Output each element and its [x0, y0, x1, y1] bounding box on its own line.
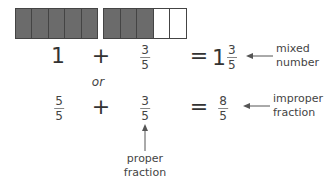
whole-bar — [15, 8, 98, 39]
label-line: fraction — [124, 166, 166, 180]
improper-fraction-label: improper fraction — [273, 92, 323, 120]
fraction-five-fifths: 5 5 — [54, 95, 64, 122]
bar-cell-filled — [82, 9, 97, 38]
mixed-number: 1 3 5 — [212, 44, 237, 71]
label-line: mixed — [276, 42, 319, 56]
bar-cell-filled — [121, 9, 138, 38]
numerator: 8 — [218, 95, 228, 109]
bar-cell-filled — [32, 9, 48, 38]
numerator: 3 — [140, 95, 150, 109]
bar-cell-empty — [170, 9, 186, 38]
plus-sign: + — [92, 96, 110, 118]
whole-number: 1 — [51, 45, 65, 67]
bar-cell-filled — [49, 9, 65, 38]
denominator: 5 — [219, 109, 227, 122]
proper-fraction-label: proper fraction — [124, 152, 166, 180]
denominator: 5 — [141, 58, 149, 71]
bar-cell-filled — [65, 9, 81, 38]
denominator: 5 — [141, 109, 149, 122]
mixed-number-label: mixed number — [276, 42, 319, 70]
equals-sign: = — [190, 45, 208, 67]
numerator: 3 — [140, 44, 150, 58]
bar-cell-filled — [104, 9, 121, 38]
fraction-three-fifths: 3 5 — [140, 95, 150, 122]
label-line: fraction — [273, 106, 323, 120]
mixed-fraction: 3 5 — [227, 44, 237, 71]
denominator: 5 — [228, 58, 236, 71]
numerator: 3 — [227, 44, 237, 58]
fraction-eight-fifths: 8 5 — [218, 95, 228, 122]
or-text: or — [92, 75, 104, 89]
denominator: 5 — [55, 109, 63, 122]
label-line: improper — [273, 92, 323, 106]
bar-cell-empty — [154, 9, 171, 38]
fraction-bar — [103, 8, 187, 39]
bar-cell-filled — [137, 9, 154, 38]
plus-sign: + — [92, 45, 110, 67]
mixed-whole: 1 — [212, 47, 226, 69]
fraction-three-fifths: 3 5 — [140, 44, 150, 71]
arrow-left-icon — [246, 52, 274, 60]
label-line: proper — [124, 152, 166, 166]
equals-sign: = — [190, 96, 208, 118]
label-line: number — [276, 56, 319, 70]
numerator: 5 — [54, 95, 64, 109]
bar-cell-filled — [16, 9, 32, 38]
arrow-left-icon — [243, 102, 271, 110]
arrow-up-icon — [141, 124, 149, 152]
